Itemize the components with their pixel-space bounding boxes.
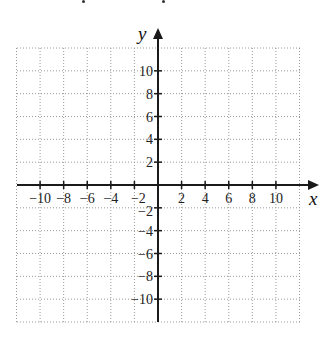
y-tick-label: −8 bbox=[138, 269, 153, 284]
x-tick-label: −4 bbox=[103, 191, 118, 206]
axes bbox=[17, 28, 319, 322]
coordinate-plane: −10−8−6−4−2246810−10−8−6−4−2246810 x y bbox=[0, 0, 327, 341]
y-tick-label: 10 bbox=[139, 64, 153, 79]
x-tick-label: −8 bbox=[56, 191, 71, 206]
y-tick-label: 2 bbox=[146, 155, 153, 170]
y-tick-label: 4 bbox=[146, 132, 153, 147]
x-tick-label: −6 bbox=[80, 191, 95, 206]
y-tick-label: 6 bbox=[146, 110, 153, 125]
y-tick-label: −2 bbox=[138, 204, 153, 219]
y-tick-label: 8 bbox=[146, 87, 153, 102]
y-axis-label: y bbox=[136, 23, 147, 44]
x-tick-label: 4 bbox=[202, 191, 209, 206]
x-tick-label: 8 bbox=[249, 191, 256, 206]
x-axis-label: x bbox=[308, 188, 318, 209]
x-tick-label: 2 bbox=[178, 191, 185, 206]
x-tick-label: 10 bbox=[269, 191, 283, 206]
y-axis-arrow-icon bbox=[153, 28, 163, 39]
y-tick-label: −6 bbox=[138, 247, 153, 262]
y-tick-label: −10 bbox=[131, 292, 153, 307]
x-tick-label: 6 bbox=[225, 191, 232, 206]
x-tick-label: −10 bbox=[29, 191, 51, 206]
y-tick-label: −4 bbox=[138, 224, 153, 239]
